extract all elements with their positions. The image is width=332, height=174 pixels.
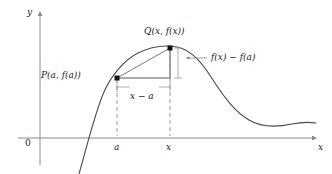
point-q-marker: [168, 46, 173, 51]
rise-annotation-label: f(x) − f(a): [211, 53, 255, 62]
secant-line-diagram: y x 0 a x P(a, f(a)) Q(x, f(x)) f(x) − f…: [0, 0, 332, 174]
origin-label: 0: [25, 139, 31, 148]
point-q-label: Q(x, f(x)): [144, 27, 185, 36]
x-tick-label-a: a: [114, 143, 119, 152]
point-p-label: P(a, f(a)): [41, 71, 81, 80]
rise-measure-bracket: [174, 48, 182, 78]
x-tick-label-x: x: [166, 143, 171, 152]
point-p-marker: [115, 76, 120, 81]
x-axis-label: x: [318, 143, 323, 152]
run-annotation-label: x − a: [130, 92, 154, 101]
y-axis-label: y: [27, 8, 32, 17]
function-curve: [79, 46, 316, 174]
secant-line: [117, 48, 170, 78]
